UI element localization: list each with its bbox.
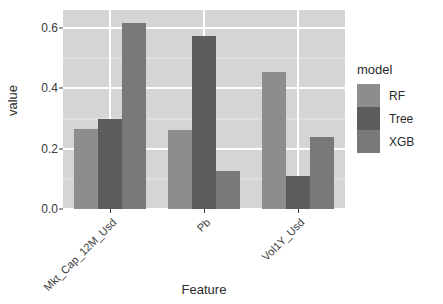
legend-title: model xyxy=(357,62,441,77)
y-axis-title-text: value xyxy=(6,84,21,115)
y-axis-title: value xyxy=(2,0,24,200)
x-tick-mark xyxy=(204,209,205,213)
legend-rows: RFTreeXGB xyxy=(357,84,441,153)
x-tick-mark xyxy=(110,209,111,213)
bar xyxy=(168,130,192,209)
bar xyxy=(216,171,240,209)
legend-swatch xyxy=(357,84,380,107)
y-tick-label: 0.4 xyxy=(24,81,58,95)
legend-item: Tree xyxy=(357,107,441,130)
y-tick-label: 0.6 xyxy=(24,21,58,35)
bar-chart: value 0.00.20.40.6 Mkt_Cap_12M_UsdPbVol1… xyxy=(0,0,443,304)
legend-item: RF xyxy=(357,84,441,107)
bar xyxy=(122,23,146,209)
legend-label: Tree xyxy=(389,112,413,126)
y-tick-label: 0.0 xyxy=(24,202,58,216)
bar xyxy=(98,119,122,209)
x-tick-mark xyxy=(298,209,299,213)
y-tick-label: 0.2 xyxy=(24,142,58,156)
legend: model RFTreeXGB xyxy=(357,62,441,153)
bar xyxy=(310,137,334,209)
bar xyxy=(262,72,286,209)
legend-item: XGB xyxy=(357,130,441,153)
plot-panel xyxy=(63,10,345,209)
bar xyxy=(286,176,310,209)
bar xyxy=(74,129,98,209)
legend-swatch xyxy=(357,130,380,153)
legend-label: XGB xyxy=(389,135,414,149)
legend-label: RF xyxy=(389,89,405,103)
legend-swatch xyxy=(357,107,380,130)
x-axis-title: Feature xyxy=(63,282,345,297)
x-axis-title-text: Feature xyxy=(182,282,227,297)
y-axis-ticks: 0.00.20.40.6 xyxy=(22,0,58,304)
bar xyxy=(192,36,216,209)
